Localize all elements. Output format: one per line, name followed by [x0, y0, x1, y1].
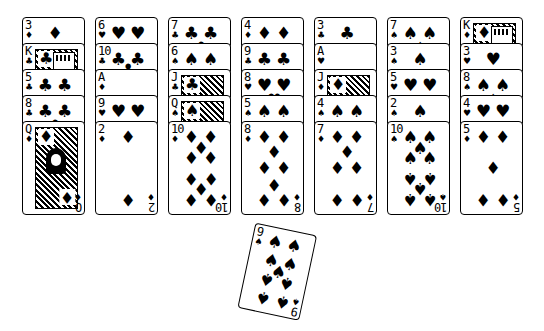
diamond-icon: ♦ — [317, 135, 325, 144]
heart-icon: ♥ — [390, 83, 398, 92]
club-icon: ♣ — [25, 109, 33, 118]
spade-icon: ♠ — [171, 109, 179, 118]
heart-icon: ♥ — [130, 102, 145, 119]
heart-icon: ♥ — [98, 109, 106, 118]
spade-icon: ♠ — [390, 31, 398, 40]
diamond-icon: ♦ — [25, 135, 33, 144]
spade-icon: ♠ — [291, 296, 301, 306]
diamond-icon: ♦ — [366, 192, 374, 201]
diamond-icon: ♦ — [476, 25, 492, 41]
game-board: 3♦♦♦♦3♦K♣♣♣K♣5♣♣♣♣♣♣5♣8♣♣♣♣♣♣♣♣♣8♣Q♦♦♦Q♦… — [0, 0, 544, 331]
heart-icon: ♥ — [111, 102, 126, 119]
spade-icon: ♠ — [412, 50, 427, 67]
card-rank-bottom: Q — [76, 201, 82, 213]
card-rank-bottom: 8 — [295, 201, 301, 213]
card-10-of-diamonds[interactable]: 10♦♦♦♦♦♦♦♦♦♦♦10♦ — [168, 121, 231, 215]
card-10-of-spades[interactable]: 10♠♠♠♠♠♠♠♠♠♠♠10♠ — [387, 121, 450, 215]
card-2-of-diamonds[interactable]: 2♦♦♦2♦ — [95, 121, 158, 215]
diamond-icon: ♦ — [495, 128, 510, 145]
card-rank-bottom: 10 — [216, 201, 228, 213]
spade-icon: ♠ — [412, 102, 427, 119]
club-icon: ♣ — [257, 50, 272, 67]
spade-icon: ♠ — [273, 292, 291, 312]
diamond-icon: ♦ — [47, 24, 62, 41]
card-5-of-diamonds[interactable]: 5♦♦♦♦♦♦5♦ — [460, 121, 523, 215]
card-rank-bottom: 7 — [368, 201, 374, 213]
spade-icon: ♠ — [254, 288, 272, 308]
tableau-column-4[interactable]: 4♦♦♦♦♦4♦9♣♣♣♣♣♣♣♣♣♣9♣8♥♥♥♥♥♥♥♥♥8♥5♠♠♠♠♠♠… — [241, 17, 304, 214]
spade-icon: ♠ — [403, 149, 418, 166]
heart-icon: ♥ — [476, 102, 491, 119]
diamond-icon: ♦ — [330, 77, 346, 93]
diamond-icon: ♦ — [476, 191, 491, 208]
dragged-card[interactable]: 9♠♠♠♠♠♠♠♠♠♠9♠ — [238, 223, 315, 319]
diamond-icon: ♦ — [463, 31, 471, 40]
spade-icon: ♠ — [184, 103, 200, 119]
diamond-icon: ♦ — [349, 160, 364, 177]
diamond-icon: ♦ — [25, 31, 33, 40]
spade-icon: ♠ — [422, 149, 437, 166]
spade-icon: ♠ — [258, 269, 276, 289]
crown-icon — [491, 26, 513, 44]
spade-icon: ♠ — [317, 109, 325, 118]
diamond-icon: ♦ — [317, 83, 325, 92]
card-8-of-diamonds[interactable]: 8♦♦♦♦♦♦♦♦♦8♦ — [241, 121, 304, 215]
spade-icon: ♠ — [244, 109, 252, 118]
diamond-icon: ♦ — [463, 135, 471, 144]
diamond-icon: ♦ — [476, 128, 491, 145]
spade-icon: ♠ — [390, 109, 398, 118]
heart-icon: ♥ — [463, 109, 471, 118]
tableau-column-3[interactable]: 7♣♣♣♣♣♣♣♣7♣6♠♠♠♠♠♠♠6♠J♣♣♣J♣Q♠♠♠Q♠10♦♦♦♦♦… — [168, 17, 231, 214]
heart-icon: ♥ — [98, 31, 106, 40]
spade-icon: ♠ — [349, 102, 364, 119]
diamond-icon: ♦ — [257, 191, 272, 208]
club-icon: ♣ — [25, 83, 33, 92]
tableau-column-5[interactable]: 3♣♣♣♣3♣A♥♥A♥J♦♦♦J♦4♠♠♠♠♠4♠7♦♦♦♦♦♦♦♦7♦ — [314, 17, 377, 214]
heart-icon: ♥ — [317, 57, 325, 66]
card-9-of-spades[interactable]: 9♠♠♠♠♠♠♠♠♠♠9♠ — [237, 223, 317, 321]
club-icon: ♣ — [38, 76, 53, 93]
spade-icon: ♠ — [257, 102, 272, 119]
card-7-of-diamonds[interactable]: 7♦♦♦♦♦♦♦♦7♦ — [314, 121, 377, 215]
heart-icon: ♥ — [244, 83, 252, 92]
club-icon: ♣ — [25, 57, 33, 66]
spade-icon: ♠ — [276, 102, 291, 119]
diamond-icon: ♦ — [244, 31, 252, 40]
tableau-column-1[interactable]: 3♦♦♦♦3♦K♣♣♣K♣5♣♣♣♣♣♣5♣8♣♣♣♣♣♣♣♣♣8♣Q♦♦♦Q♦ — [22, 17, 85, 214]
face-card-portrait: ♦♦ — [35, 127, 78, 209]
spade-icon: ♠ — [390, 57, 398, 66]
diamond-icon: ♦ — [98, 135, 106, 144]
club-icon: ♣ — [244, 57, 252, 66]
diamond-icon: ♦ — [147, 192, 155, 201]
diamond-icon: ♦ — [220, 192, 228, 201]
diamond-icon: ♦ — [349, 191, 364, 208]
club-icon: ♣ — [171, 31, 179, 40]
diamond-icon: ♦ — [495, 191, 510, 208]
club-icon: ♣ — [276, 50, 291, 67]
diamond-icon: ♦ — [244, 135, 252, 144]
diamond-icon: ♦ — [59, 189, 75, 205]
heart-icon: ♥ — [111, 24, 126, 41]
diamond-icon: ♦ — [203, 149, 218, 166]
diamond-icon: ♦ — [120, 128, 135, 145]
card-q-of-diamonds[interactable]: Q♦♦♦Q♦ — [22, 121, 85, 215]
tableau-column-7[interactable]: K♦♦♦K♦3♥♥♥♥3♥8♠♠♠♠♠♠♠♠♠8♠4♥♥♥♥♥4♥5♦♦♦♦♦♦… — [460, 17, 523, 214]
spade-icon: ♠ — [277, 273, 295, 293]
diamond-icon: ♦ — [293, 192, 301, 201]
club-icon: ♣ — [98, 57, 106, 66]
club-icon: ♣ — [317, 31, 325, 40]
diamond-icon: ♦ — [276, 24, 291, 41]
tableau-column-2[interactable]: 6♥♥♥♥♥♥♥6♥10♣♣♣♣♣♣♣♣♣♣♣10♣A♦♦A♦9♥♥♥♥♥♥♥♥… — [95, 17, 158, 214]
club-icon: ♣ — [184, 77, 200, 93]
club-icon: ♣ — [339, 24, 354, 41]
spade-icon: ♠ — [439, 192, 447, 201]
tableau-column-6[interactable]: 7♠♠♠♠♠♠♠♠7♠3♠♠♠♠3♠5♥♥♥♥♥♥5♥2♠♠♠2♠10♠♠♠♠♠… — [387, 17, 450, 214]
spade-icon: ♠ — [184, 50, 199, 67]
diamond-icon: ♦ — [171, 135, 179, 144]
diamond-icon: ♦ — [257, 24, 272, 41]
diamond-icon: ♦ — [98, 83, 106, 92]
diamond-icon: ♦ — [485, 160, 500, 177]
card-rank-bottom: 10 — [435, 201, 447, 213]
spade-icon: ♠ — [330, 102, 345, 119]
heart-icon: ♥ — [403, 76, 418, 93]
